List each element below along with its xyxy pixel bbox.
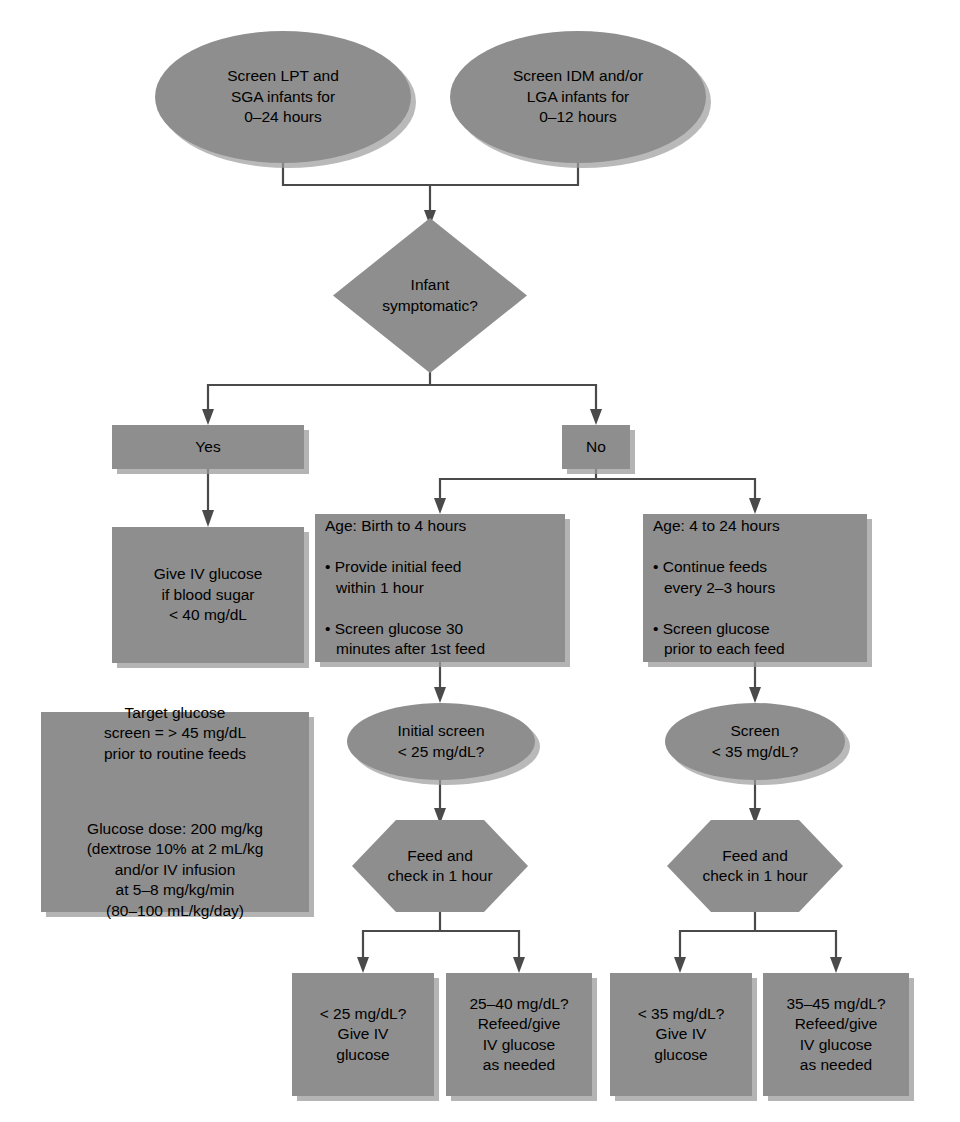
node-result-25-40[interactable]: 25–40 mg/dL? Refeed/give IV glucose as n…: [446, 973, 592, 1096]
node-screen-idm-lga-label: Screen IDM and/or LGA infants for 0–12 h…: [450, 66, 706, 127]
node-result-lt-35[interactable]: < 35 mg/dL? Give IV glucose: [610, 973, 752, 1096]
node-yes-branch[interactable]: Yes: [112, 425, 304, 469]
node-age-4-to-24-bullet-2: • Screen glucose prior to each feed: [653, 619, 857, 660]
node-no-branch-label: No: [562, 437, 630, 457]
target-glucose-note-paragraph-1: Target glucose screen = > 45 mg/dL prior…: [41, 703, 309, 764]
node-age-birth-to-4-bullet-2: • Screen glucose 30 minutes after 1st fe…: [325, 619, 555, 660]
node-feed-check-right-label: Feed and check in 1 hour: [667, 820, 843, 912]
node-age-4-to-24-header: Age: 4 to 24 hours: [653, 516, 857, 536]
node-result-35-45[interactable]: 35–45 mg/dL? Refeed/give IV glucose as n…: [763, 973, 909, 1096]
node-infant-symptomatic-label: Infant symptomatic?: [333, 218, 527, 373]
edge-hex-right-to-results: [674, 912, 842, 973]
node-age-4-to-24[interactable]: Age: 4 to 24 hours • Continue feeds ever…: [643, 514, 867, 662]
node-feed-check-right[interactable]: Feed and check in 1 hour: [667, 820, 843, 912]
flowchart-canvas: Screen LPT and SGA infants for 0–24 hour…: [0, 0, 960, 1122]
node-screen-lpt-sga-label: Screen LPT and SGA infants for 0–24 hour…: [155, 66, 411, 127]
node-initial-screen-25-label: Initial screen < 25 mg/dL?: [347, 721, 535, 762]
node-initial-screen-25[interactable]: Initial screen < 25 mg/dL?: [347, 703, 535, 780]
node-feed-check-left[interactable]: Feed and check in 1 hour: [352, 820, 528, 912]
node-infant-symptomatic[interactable]: Infant symptomatic?: [333, 218, 527, 373]
node-result-lt-25-label: < 25 mg/dL? Give IV glucose: [292, 1004, 434, 1065]
node-screen-lpt-sga[interactable]: Screen LPT and SGA infants for 0–24 hour…: [155, 31, 411, 163]
node-yes-branch-label: Yes: [112, 437, 304, 457]
edge-screen-to-hex: [749, 780, 761, 824]
target-glucose-note-paragraph-2: Glucose dose: 200 mg/kg (dextrose 10% at…: [41, 819, 309, 921]
node-age-birth-to-4-bullet-1: • Provide initial feed within 1 hour: [325, 557, 555, 598]
node-age-birth-to-4[interactable]: Age: Birth to 4 hours • Provide initial …: [315, 514, 565, 662]
edge-yes-to-give-iv: [202, 468, 214, 527]
edge-ellipses-to-diamond: [283, 163, 578, 226]
node-screen-idm-lga[interactable]: Screen IDM and/or LGA infants for 0–12 h…: [450, 31, 706, 163]
node-age-birth-to-4-header: Age: Birth to 4 hours: [325, 516, 555, 536]
node-result-lt-35-label: < 35 mg/dL? Give IV glucose: [610, 1004, 752, 1065]
node-screen-35-label: Screen < 35 mg/dL?: [665, 721, 845, 762]
node-target-glucose-note: Target glucose screen = > 45 mg/dL prior…: [41, 712, 309, 912]
edge-hex-left-to-results: [357, 912, 525, 973]
node-give-iv-glucose-label: Give IV glucose if blood sugar < 40 mg/d…: [112, 564, 304, 625]
note-paragraph-gap: [41, 785, 309, 799]
node-no-branch[interactable]: No: [562, 425, 630, 469]
node-age-4-to-24-bullet-1: • Continue feeds every 2–3 hours: [653, 557, 857, 598]
edge-initial-screen-to-hex: [434, 780, 446, 824]
edge-diamond-to-yesno: [202, 372, 602, 425]
node-result-35-45-label: 35–45 mg/dL? Refeed/give IV glucose as n…: [763, 994, 909, 1076]
node-feed-check-left-label: Feed and check in 1 hour: [352, 820, 528, 912]
node-screen-35[interactable]: Screen < 35 mg/dL?: [665, 703, 845, 780]
node-result-25-40-label: 25–40 mg/dL? Refeed/give IV glucose as n…: [446, 994, 592, 1076]
node-result-lt-25[interactable]: < 25 mg/dL? Give IV glucose: [292, 973, 434, 1096]
node-give-iv-glucose[interactable]: Give IV glucose if blood sugar < 40 mg/d…: [112, 527, 304, 663]
